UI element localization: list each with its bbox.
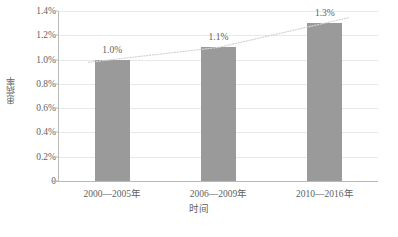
x-axis-category-label: 2010—2016年	[296, 186, 354, 200]
bar-value-label: 1.0%	[102, 45, 122, 55]
x-axis-category-label: 2006—2009年	[190, 186, 248, 200]
bar	[95, 60, 130, 181]
x-axis-category-label: 2000—2005年	[83, 186, 141, 200]
chart-figure: 患病率 00.2%0.4%0.6%0.8%1.0%1.2%1.4% 1.0%20…	[0, 0, 398, 237]
x-axis-line	[53, 181, 378, 182]
bar-value-label: 1.1%	[209, 32, 229, 42]
bar-value-label: 1.3%	[315, 8, 335, 18]
x-axis-title: 时间	[0, 201, 398, 215]
bar	[201, 47, 236, 181]
bar	[307, 23, 342, 181]
